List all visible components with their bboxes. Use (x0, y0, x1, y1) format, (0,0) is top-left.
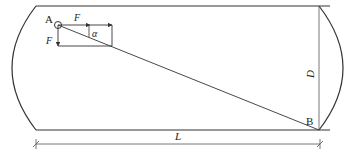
force-horizontal-label: F (73, 12, 81, 23)
point-b-label: B (306, 115, 313, 127)
force-diagram: F F α (45, 12, 112, 46)
angle-label: α (92, 28, 98, 39)
force-vertical-label: F (45, 35, 53, 46)
right-arc (319, 6, 343, 130)
left-arc (12, 6, 36, 130)
diameter-label: D (304, 70, 316, 79)
path-a-to-b (58, 25, 319, 130)
diagram-canvas: D A B F F α L (0, 0, 355, 155)
length-label: L (174, 130, 181, 142)
length-dimension: L (33, 130, 323, 149)
point-a-label: A (45, 13, 53, 25)
